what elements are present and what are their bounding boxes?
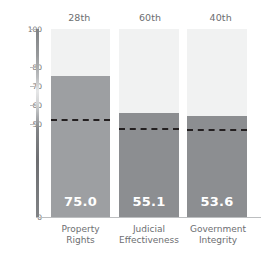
category-label-line-1: Property <box>43 224 118 235</box>
reference-line-property-rights <box>51 119 110 121</box>
category-label-line-1: Government <box>177 224 259 235</box>
bar-value-judicial-effectiveness: 55.1 <box>119 194 179 209</box>
category-label-government-integrity: Government Integrity <box>177 224 259 246</box>
bar-value-property-rights: 75.0 <box>51 194 110 209</box>
plot-area: 100 80 70 60 50 0 75.0 Property Rights 5… <box>0 0 261 259</box>
bar-value-government-integrity: 53.6 <box>187 194 247 209</box>
reference-line-government-integrity <box>187 129 247 131</box>
category-label-property-rights: Property Rights <box>43 224 118 246</box>
category-label-line-2: Rights <box>43 235 118 246</box>
reference-line-judicial-effectiveness <box>119 128 179 130</box>
bar-chart: 28th 60th 40th 100 80 70 60 50 0 75.0 Pr… <box>0 0 261 259</box>
x-axis-baseline <box>36 217 261 218</box>
y-axis-gradient-strip <box>36 29 39 217</box>
category-label-line-2: Integrity <box>177 235 259 246</box>
